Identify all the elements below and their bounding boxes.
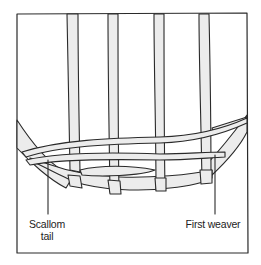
scallom-label-line1: Scallom (24, 218, 70, 230)
stake-2 (108, 14, 119, 192)
scallom-loop (80, 166, 155, 176)
first-weaver (22, 118, 247, 157)
stake-3 (154, 14, 165, 190)
scallom-label-line2: tail (24, 230, 70, 242)
scallom-tail-label: Scallom tail (24, 218, 70, 242)
first-weaver-label: First weaver (180, 218, 246, 230)
scallom-strand (26, 152, 225, 165)
